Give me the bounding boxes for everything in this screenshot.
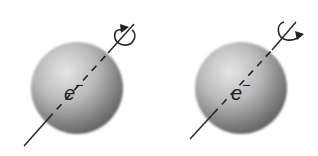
electron-symbol: e (64, 82, 75, 104)
electron-label-right: e− (231, 79, 250, 105)
spin-axis-left-bottom (24, 119, 48, 146)
spin-axis-right-top (272, 22, 296, 50)
electron-spin-diagram (0, 0, 318, 156)
charge-symbol: − (242, 77, 250, 93)
spin-axis-right-bottom (190, 114, 213, 139)
charge-symbol: − (75, 77, 83, 93)
electron-label-left: e− (64, 79, 83, 105)
rotation-arrow-icon-right (278, 22, 304, 40)
electron-symbol: e (231, 82, 242, 104)
